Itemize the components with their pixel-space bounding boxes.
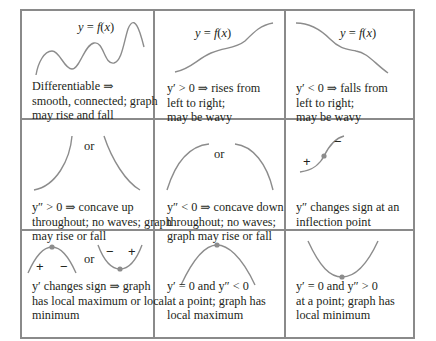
max-point-icon bbox=[49, 244, 54, 249]
cell-caption: y′ changes sign ⇒ graph has local maximu… bbox=[32, 279, 167, 323]
max-point-icon bbox=[214, 242, 219, 247]
minus-sign: − bbox=[334, 134, 342, 149]
concave-up-arc-right-icon bbox=[104, 136, 140, 190]
cell-concave-up: or y″ > 0 ⇒ concave up throughout; no wa… bbox=[22, 120, 153, 229]
cell-caption: y′ < 0 ⇒ falls from left to right; may b… bbox=[296, 81, 388, 125]
curve-label: y = f(x) bbox=[76, 20, 114, 34]
cell-caption: Differentiable ⇒ smooth, connected; grap… bbox=[32, 79, 158, 123]
cell-differentiable: y = f(x) Differentiable ⇒ smooth, connec… bbox=[22, 11, 153, 118]
local-minimum-curve-icon bbox=[308, 241, 378, 277]
concave-down-arc-right-icon bbox=[235, 144, 273, 190]
cell-caption: y″ changes sign at an inflection point bbox=[296, 200, 399, 229]
or-label: or bbox=[84, 139, 95, 153]
plus-sign: + bbox=[128, 244, 136, 259]
cell-caption: y′ = 0 and y″ > 0 at a point; graph has … bbox=[296, 279, 395, 323]
inflection-point-icon bbox=[321, 153, 326, 158]
cell-local-maximum: y′ = 0 and y″ < 0 at a point; graph has … bbox=[155, 231, 284, 341]
or-label: or bbox=[84, 252, 95, 266]
minus-sign: − bbox=[60, 259, 68, 274]
minus-sign: − bbox=[106, 244, 114, 259]
cell-inflection: + − y″ changes sign at an inflection poi… bbox=[286, 120, 415, 229]
cell-local-minimum: y′ = 0 and y″ > 0 at a point; graph has … bbox=[286, 231, 415, 341]
or-label: or bbox=[214, 147, 225, 161]
concave-down-arc-left-icon bbox=[167, 144, 209, 190]
plus-sign: + bbox=[36, 259, 44, 274]
concave-up-arc-left-icon bbox=[34, 136, 72, 190]
cell-caption: y′ = 0 and y″ < 0 at a point; graph has … bbox=[167, 279, 266, 323]
derivative-summary-table: y = f(x) Differentiable ⇒ smooth, connec… bbox=[20, 9, 415, 339]
curve-label: y = f(x) bbox=[193, 26, 231, 40]
cell-local-extremum: + − or − + y′ changes sign ⇒ graph has l… bbox=[22, 231, 153, 341]
cell-concave-down: or y″ < 0 ⇒ concave down throughout; no … bbox=[155, 120, 284, 229]
curve-label: y = f(x) bbox=[338, 26, 376, 40]
cell-caption: y′ > 0 ⇒ rises from left to right; may b… bbox=[167, 81, 260, 125]
cell-decreasing: y = f(x) y′ < 0 ⇒ falls from left to rig… bbox=[286, 11, 415, 118]
min-point-icon bbox=[117, 266, 122, 271]
cell-increasing: y = f(x) y′ > 0 ⇒ rises from left to rig… bbox=[155, 11, 284, 118]
plus-sign: + bbox=[303, 154, 311, 169]
